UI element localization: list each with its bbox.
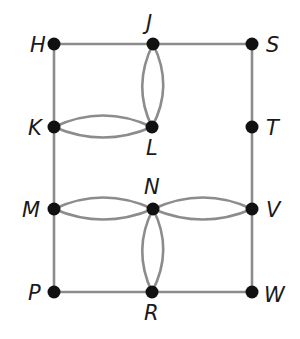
- edge-K-L: [54, 127, 152, 138]
- vertex-J: [147, 38, 160, 51]
- vertex-W: [246, 286, 259, 299]
- edge-K-L: [54, 116, 152, 128]
- edge-N-R: [142, 209, 153, 292]
- edge-N-R: [152, 209, 163, 292]
- vertex-label-L: L: [146, 136, 158, 160]
- vertex-H: [48, 38, 61, 51]
- graph-diagram: HJSKLTMNVPRW: [0, 0, 300, 339]
- vertex-label-R: R: [144, 301, 159, 325]
- vertex-label-S: S: [266, 33, 279, 57]
- vertex-label-N: N: [144, 175, 160, 199]
- vertex-label-M: M: [22, 198, 40, 222]
- vertex-K: [48, 121, 61, 134]
- edge-N-V: [153, 209, 252, 220]
- vertex-label-W: W: [264, 283, 286, 307]
- edge-J-L: [152, 44, 163, 127]
- vertex-P: [48, 286, 61, 299]
- vertex-M: [48, 203, 61, 216]
- labels: HJSKLTMNVPRW: [22, 11, 286, 325]
- edge-N-V: [153, 198, 252, 210]
- vertex-label-H: H: [30, 33, 46, 57]
- vertex-R: [146, 286, 159, 299]
- edges: [54, 44, 252, 292]
- vertex-label-J: J: [142, 11, 152, 35]
- edge-M-N: [54, 209, 153, 220]
- vertex-V: [246, 203, 259, 216]
- vertex-label-V: V: [266, 198, 282, 222]
- vertex-T: [246, 121, 259, 134]
- nodes: [48, 38, 259, 299]
- vertex-N: [147, 203, 160, 216]
- vertex-S: [246, 38, 259, 51]
- vertex-label-T: T: [266, 116, 281, 140]
- vertex-label-K: K: [28, 116, 44, 140]
- vertex-label-P: P: [28, 281, 41, 305]
- edge-M-N: [54, 198, 153, 210]
- vertex-L: [146, 121, 159, 134]
- edge-J-L: [142, 44, 153, 127]
